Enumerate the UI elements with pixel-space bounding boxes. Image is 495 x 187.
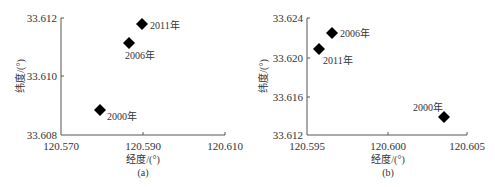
y-tick-label: 33.612 [27, 12, 57, 24]
chart-panel-a: 33.612 33.610 33.608 120.570 120.590 120… [0, 0, 248, 187]
panel-label: (a) [137, 167, 148, 179]
panel-label: (b) [382, 167, 394, 179]
y-tick-label: 33.624 [273, 12, 304, 24]
x-axis-title: 经度/(°) [371, 153, 404, 166]
y-tick-label: 33.610 [27, 70, 58, 82]
x-tick-label: 120.605 [449, 140, 485, 152]
point-label: 2006年 [340, 27, 370, 39]
data-point-2011 [136, 18, 148, 30]
x-axis-title: 经度/(°) [126, 153, 159, 166]
x-tick-label: 120.600 [370, 140, 406, 152]
y-tick-label: 33.620 [273, 52, 304, 64]
y-axis-title: 纬度/(°) [257, 59, 270, 92]
y-axis-title: 纬度/(°) [14, 59, 27, 92]
data-point-2000 [94, 104, 106, 116]
scatter-plot-a: 33.612 33.610 33.608 120.570 120.590 120… [0, 0, 248, 187]
point-label: 2000年 [107, 110, 137, 122]
data-point-2006 [326, 27, 338, 39]
scatter-plot-b: 33.624 33.620 33.616 33.612 120.595 120.… [245, 0, 495, 187]
x-tick-label: 120.590 [125, 140, 161, 152]
data-point-2006 [123, 37, 135, 49]
point-label: 2011年 [150, 19, 180, 31]
x-tick-label: 120.570 [43, 140, 79, 152]
x-tick-label: 120.595 [289, 140, 325, 152]
point-label: 2011年 [323, 54, 353, 66]
data-point-2011 [313, 43, 325, 55]
point-label: 2000年 [413, 101, 443, 113]
point-label: 2006年 [125, 49, 155, 61]
y-tick-label: 33.616 [273, 91, 304, 103]
chart-panel-b: 33.624 33.620 33.616 33.612 120.595 120.… [245, 0, 495, 187]
x-tick-label: 120.610 [207, 140, 243, 152]
